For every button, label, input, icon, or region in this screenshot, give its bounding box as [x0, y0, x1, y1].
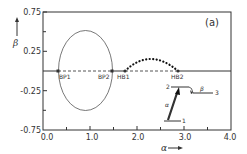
- y-tick-label: 0.75: [23, 8, 41, 17]
- hb2-label: HB2: [171, 73, 184, 80]
- y-tick-label: -0.75: [20, 126, 41, 135]
- x-tick-label: 3.0: [179, 133, 192, 142]
- inset-level-3: 3: [215, 89, 219, 96]
- inset-level-2: 2: [166, 83, 170, 90]
- x-tick-label: 1.0: [86, 133, 99, 142]
- svg-text:α: α: [161, 143, 167, 153]
- x-tick-label: 0.0: [41, 133, 54, 142]
- y-axis-label: β: [12, 17, 19, 48]
- inset-level-diagram: [164, 87, 213, 121]
- bifurcation-chart: 0.75 0.25 -0.25 -0.75 0.0 1.0 2.0 3.0 4.…: [0, 0, 247, 154]
- bp2-label: BP2: [98, 73, 110, 80]
- svg-text:β: β: [12, 38, 18, 48]
- x-tick-label: 4.0: [224, 133, 237, 142]
- bp1-label: BP1: [59, 73, 71, 80]
- inset-level-1: 1: [182, 117, 186, 124]
- inset-beta-label: β: [200, 85, 204, 93]
- hb1-label: HB1: [117, 73, 130, 80]
- periodic-branch: [125, 59, 178, 71]
- inset-alpha-label: α: [165, 101, 169, 108]
- x-ticks: [67, 126, 208, 130]
- x-tick-label: 2.0: [132, 133, 145, 142]
- panel-label: (a): [205, 17, 219, 28]
- y-ticks: [43, 12, 47, 110]
- x-axis-label: α: [161, 143, 183, 153]
- y-tick-label: -0.25: [20, 87, 41, 96]
- y-tick-label: 0.25: [23, 47, 41, 56]
